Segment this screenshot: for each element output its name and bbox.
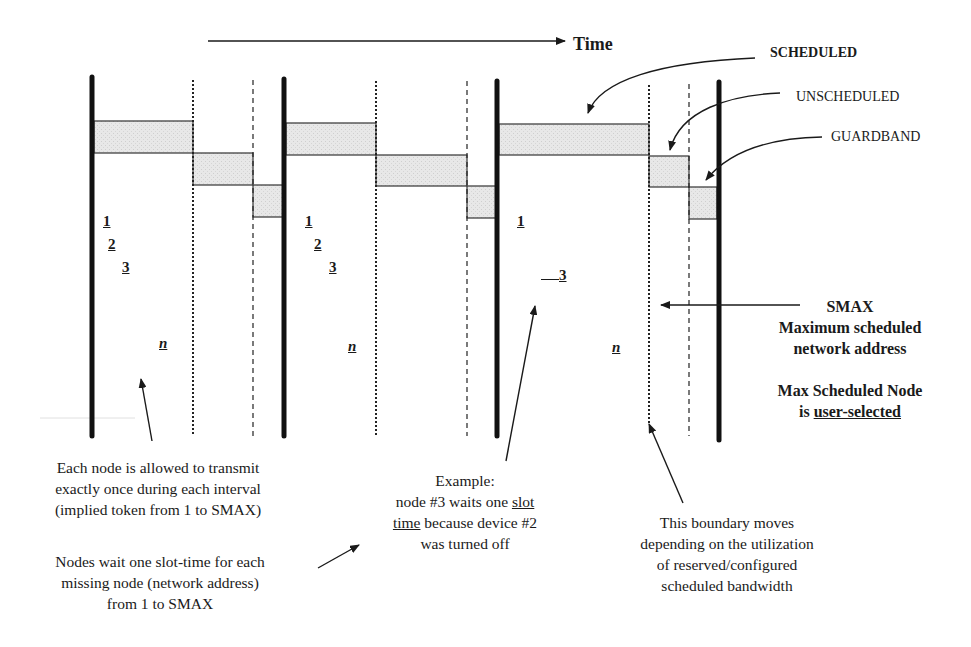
scheduled-block — [94, 121, 193, 153]
unscheduled-block — [376, 155, 467, 186]
guardband-block — [689, 187, 717, 219]
node-label-n: n — [612, 339, 620, 356]
legend-guardband: GUARDBAND — [831, 129, 920, 145]
smax-line3: Max Scheduled Node — [750, 380, 950, 401]
interval-2 — [284, 79, 496, 436]
node-label-n: n — [159, 335, 167, 352]
node-label-1: 1 — [517, 213, 525, 230]
scheduled-block — [286, 123, 376, 155]
node-label-1: 1 — [305, 213, 313, 230]
node-label-1: 1 — [103, 213, 111, 230]
node-label-n: n — [348, 338, 356, 355]
scheduled-block — [499, 124, 649, 155]
smax-line4: is user-selected — [750, 401, 950, 422]
example-arrow — [506, 306, 535, 461]
each-node-annotation: Each node is allowed to transmit exactly… — [28, 457, 288, 520]
node-label-2: 2 — [108, 236, 116, 253]
scheduled-arrow — [588, 58, 755, 113]
legend-unscheduled: UNSCHEDULED — [796, 89, 899, 105]
unscheduled-block — [193, 153, 253, 185]
node-label-3: 3 — [559, 267, 567, 283]
interval-3 — [497, 81, 719, 440]
each-node-arrow — [141, 379, 152, 441]
node-label-3: 3 — [122, 259, 130, 276]
smax-line1: Maximum scheduled — [750, 317, 950, 338]
time-axis-label: Time — [573, 34, 613, 55]
guardband-arrow — [706, 137, 822, 180]
node-label-3: 3 — [329, 259, 337, 276]
example-annotation: Example: node #3 waits one slot time bec… — [370, 470, 560, 554]
nodes-wait-arrow — [318, 545, 359, 568]
unscheduled-block — [649, 156, 689, 187]
guardband-block — [253, 185, 283, 217]
guardband-block — [467, 186, 496, 218]
boundary-arrow — [649, 424, 683, 503]
interval-1 — [92, 77, 283, 436]
node-label-2: 2 — [314, 236, 322, 253]
user-selected-text: user-selected — [814, 403, 901, 420]
legend-scheduled: SCHEDULED — [770, 45, 857, 61]
unscheduled-arrow — [670, 93, 780, 150]
smax-title: SMAX — [750, 296, 950, 317]
boundary-annotation: This boundary moves depending on the uti… — [612, 512, 842, 596]
legend-arrows — [588, 58, 822, 180]
nodes-wait-annotation: Nodes wait one slot-time for each missin… — [25, 551, 295, 614]
node-label-3-with-gap: 3 — [541, 265, 567, 284]
smax-line2: network address — [750, 338, 950, 359]
smax-description: SMAX Maximum scheduled network address M… — [750, 296, 950, 422]
